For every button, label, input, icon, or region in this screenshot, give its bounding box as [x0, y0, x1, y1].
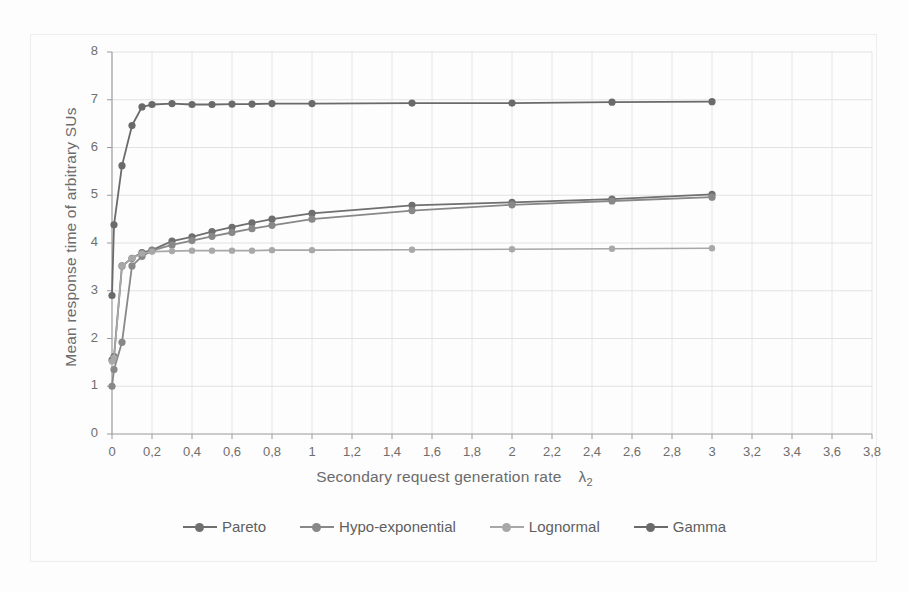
data-point	[269, 247, 275, 253]
data-point	[108, 292, 115, 299]
data-point	[111, 354, 117, 360]
data-point	[148, 101, 155, 108]
data-point	[409, 246, 415, 252]
data-point	[608, 99, 615, 106]
legend-label: Pareto	[222, 518, 266, 535]
data-point	[509, 246, 515, 252]
data-point	[308, 100, 315, 107]
series-pareto	[108, 191, 715, 364]
data-point	[709, 245, 715, 251]
x-axis-title-text: Secondary request generation rate	[316, 468, 561, 485]
data-point	[408, 99, 415, 106]
data-point	[169, 248, 175, 254]
series-line	[112, 194, 712, 360]
legend-item-hypo-exponential[interactable]: Hypo-exponential	[300, 518, 456, 535]
data-point	[608, 197, 615, 204]
data-point	[228, 100, 235, 107]
data-point	[128, 262, 135, 269]
data-point	[508, 99, 515, 106]
data-point	[139, 250, 145, 256]
chart-legend: ParetoHypo-exponentialLognormalGamma	[0, 518, 909, 535]
data-point	[208, 101, 215, 108]
lambda-subscript: 2	[586, 476, 592, 488]
data-series-layer	[108, 98, 715, 390]
data-point	[308, 216, 315, 223]
data-point	[168, 241, 175, 248]
data-point	[248, 100, 255, 107]
data-point	[128, 122, 135, 129]
data-point	[268, 216, 275, 223]
chart-figure: 00,20,40,60,811,21,41,61,822,22,42,62,83…	[0, 0, 909, 592]
data-point	[708, 98, 715, 105]
data-point	[609, 246, 615, 252]
data-point	[168, 100, 175, 107]
data-point	[228, 229, 235, 236]
data-point	[268, 100, 275, 107]
data-point	[118, 162, 125, 169]
data-point	[708, 194, 715, 201]
data-point	[110, 366, 117, 373]
data-point	[188, 237, 195, 244]
data-point	[119, 263, 125, 269]
data-point	[208, 233, 215, 240]
data-point	[188, 101, 195, 108]
y-axis-title-wrapper: Mean response time of arbitrary SUs	[24, 0, 54, 470]
legend-label: Lognormal	[529, 518, 600, 535]
data-point	[118, 339, 125, 346]
data-point	[268, 222, 275, 229]
data-point	[189, 247, 195, 253]
legend-marker-icon	[183, 521, 217, 533]
data-point	[248, 225, 255, 232]
data-point	[408, 207, 415, 214]
chart-plot-area	[0, 0, 909, 592]
legend-marker-icon	[490, 521, 524, 533]
legend-item-pareto[interactable]: Pareto	[183, 518, 266, 535]
legend-marker-icon	[634, 521, 668, 533]
y-axis-title: Mean response time of arbitrary SUs	[62, 72, 80, 402]
y-tick-label: 0	[64, 425, 98, 440]
gridlines	[112, 52, 872, 434]
series-lognormal	[109, 245, 715, 365]
legend-label: Gamma	[673, 518, 726, 535]
x-tick-marks	[112, 434, 872, 439]
data-point	[309, 247, 315, 253]
legend-label: Hypo-exponential	[339, 518, 456, 535]
x-axis-title: Secondary request generation rate λ2	[0, 468, 909, 488]
y-tick-label: 8	[64, 43, 98, 58]
data-point	[110, 221, 117, 228]
data-point	[229, 247, 235, 253]
series-line	[112, 248, 712, 361]
y-tick-marks	[107, 52, 112, 434]
series-hypo-exponential	[108, 194, 715, 390]
legend-item-lognormal[interactable]: Lognormal	[490, 518, 600, 535]
data-point	[209, 247, 215, 253]
legend-item-gamma[interactable]: Gamma	[634, 518, 726, 535]
data-point	[149, 248, 155, 254]
data-point	[129, 255, 135, 261]
data-point	[508, 201, 515, 208]
data-point	[138, 103, 145, 110]
data-point	[108, 383, 115, 390]
legend-marker-icon	[300, 521, 334, 533]
series-line	[112, 197, 712, 386]
x-tick-label: 3,8	[847, 444, 897, 459]
data-point	[249, 247, 255, 253]
